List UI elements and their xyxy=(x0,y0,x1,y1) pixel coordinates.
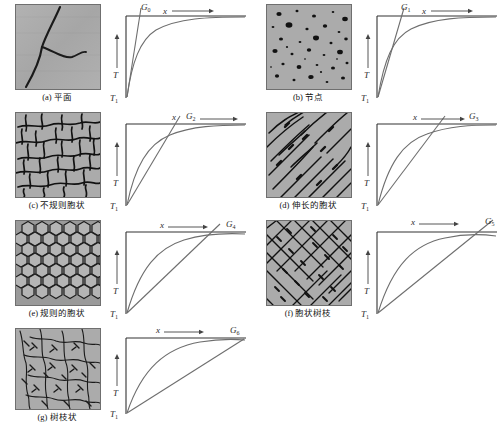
gradient-label: G3 xyxy=(469,111,479,122)
liquidus-curve xyxy=(127,125,245,205)
chart-g: T T1 x G6 xyxy=(108,326,248,418)
x-axis-label: x xyxy=(412,112,417,122)
micrograph-regular-cellular xyxy=(15,220,101,306)
y-axis-label: T xyxy=(364,286,370,296)
y-axis-label: T xyxy=(113,388,119,398)
y-axis-base-label: T1 xyxy=(110,93,118,104)
chart-f: T T1 x G5 xyxy=(359,218,499,320)
chart-c: T T1 x G2 xyxy=(108,110,248,212)
gradient-line xyxy=(378,8,404,97)
micrograph-planar xyxy=(15,4,101,90)
panel-c: (c) 不规则胞状 T T1 x G2 xyxy=(0,108,250,216)
y-axis-base-label: T1 xyxy=(361,309,369,320)
caption-b: (b) 节点 xyxy=(251,90,365,102)
y-axis-base-label: T1 xyxy=(110,409,118,420)
micrograph-irregular-cellular xyxy=(15,112,101,198)
liquidus-curve xyxy=(127,234,245,313)
y-axis-label: T xyxy=(364,178,370,188)
gradient-label: G2 xyxy=(186,111,196,122)
gradient-label: G6 xyxy=(230,325,240,336)
liquidus-curve xyxy=(378,125,496,205)
y-axis-base-label: T1 xyxy=(110,201,118,212)
x-axis-label: x xyxy=(159,220,164,230)
x-axis-label: x xyxy=(410,217,415,227)
y-axis-base-label: T1 xyxy=(361,201,369,212)
micrograph-dendritic xyxy=(15,328,101,410)
caption-d: (d) 伸长的胞状 xyxy=(251,198,365,210)
y-axis-label: T xyxy=(113,286,119,296)
x-axis-label: x xyxy=(171,112,176,122)
chart-b: T T1 x G1 xyxy=(359,2,499,104)
caption-e: (e) 规则的胞状 xyxy=(0,306,114,318)
x-axis-label: x xyxy=(155,325,160,335)
gradient-label: G0 xyxy=(141,2,151,13)
caption-g: (g) 树枝状 xyxy=(0,410,114,422)
liquidus-curve xyxy=(127,17,245,97)
caption-a: (a) 平面 xyxy=(0,90,114,102)
y-axis-base-label: T1 xyxy=(361,93,369,104)
caption-c: (c) 不规则胞状 xyxy=(0,198,114,210)
panel-e: (e) 规则的胞状 T T1 x G4 xyxy=(0,216,250,324)
chart-d: T T1 x G3 xyxy=(359,110,499,212)
x-axis-label: x xyxy=(162,6,167,16)
x-axis-label: x xyxy=(421,6,426,16)
gradient-line xyxy=(127,8,141,97)
gradient-label: G4 xyxy=(226,219,236,230)
micrograph-cellular-dendritic xyxy=(266,220,352,306)
caption-f: (f) 胞状树枝 xyxy=(251,306,365,318)
panel-b: (b) 节点 T T1 x G1 xyxy=(251,0,501,108)
y-axis-label: T xyxy=(364,70,370,80)
chart-e: T T1 x G4 xyxy=(108,218,248,320)
micrograph-nodes xyxy=(266,4,352,90)
liquidus-curve xyxy=(378,17,496,97)
gradient-line xyxy=(127,116,180,205)
panel-f: (f) 胞状树枝 T T1 x G5 xyxy=(251,216,501,324)
chart-a: T T1 x G0 xyxy=(108,2,248,104)
y-axis-label: T xyxy=(113,70,119,80)
liquidus-curve xyxy=(378,235,496,313)
y-axis-label: T xyxy=(113,178,119,188)
micrograph-elongated-cellular xyxy=(266,112,352,198)
y-axis-base-label: T1 xyxy=(110,309,118,320)
gradient-label: G1 xyxy=(401,2,411,13)
panel-d: (d) 伸长的胞状 T T1 x G3 xyxy=(251,108,501,216)
panel-g: (g) 树枝状 T T1 x G6 xyxy=(0,324,250,420)
panel-a: (a) 平面 T T1 x G0 xyxy=(0,0,250,108)
gradient-line xyxy=(127,224,220,313)
gradient-label: G5 xyxy=(485,216,495,227)
gradient-line xyxy=(378,116,445,205)
gradient-line xyxy=(378,220,493,313)
